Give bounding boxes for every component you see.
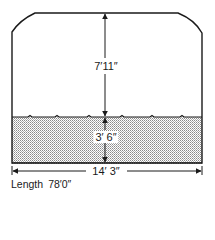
liquid-surface-line: [12, 116, 202, 118]
liquid-depth-label: 3′ 6″: [93, 131, 118, 143]
length-caption-label: Length: [11, 178, 43, 190]
length-caption-value: 78′0″: [48, 178, 71, 190]
width-label: 14′ 3″: [90, 165, 121, 177]
air-space-height-label: 7′11″: [92, 60, 120, 72]
length-caption: Length78′0″: [11, 178, 71, 190]
